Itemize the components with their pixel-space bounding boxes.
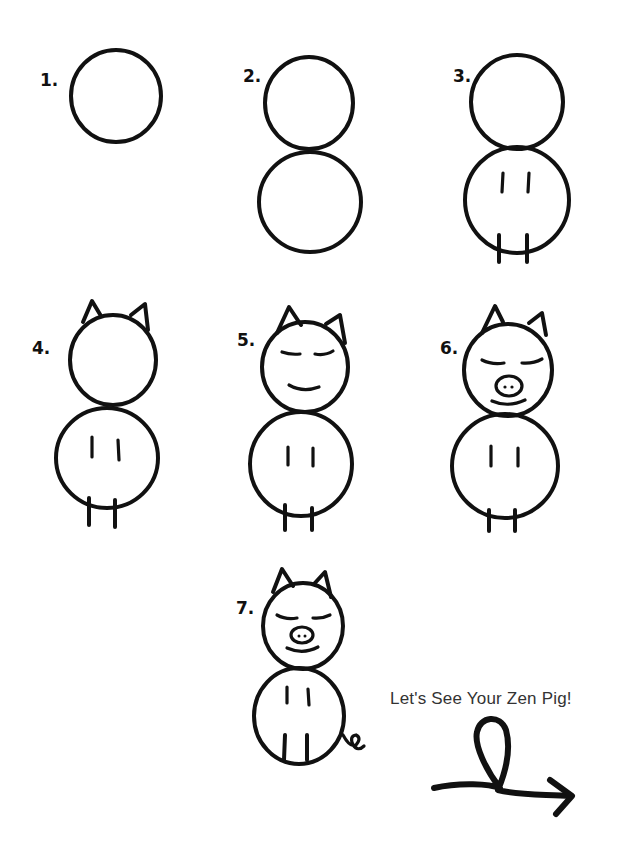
pig-drawings: [0, 0, 625, 853]
drawing-tutorial: 1. 2. 3. 4. 5. 6. 7.: [0, 0, 625, 853]
step-4-drawing: [56, 301, 158, 527]
loop-arrow-icon: [434, 719, 572, 814]
step-2-drawing: [259, 57, 361, 252]
caption-text: Let's See Your Zen Pig!: [390, 689, 572, 709]
step-3-drawing: [465, 55, 569, 262]
step-1-head-circle: [71, 50, 161, 142]
step-7-drawing: [254, 569, 364, 764]
step-5-drawing: [250, 307, 352, 530]
step-6-drawing: [452, 306, 558, 531]
